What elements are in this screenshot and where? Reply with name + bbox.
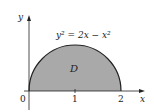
- diagram: y x 0 1 2 y² = 2x − x² D: [0, 0, 154, 112]
- equation-label: y² = 2x − x²: [55, 30, 111, 40]
- x-axis-label: x: [140, 94, 145, 104]
- x-axis-arrow-icon: [139, 89, 145, 93]
- tick-label-2: 2: [118, 94, 124, 104]
- tick-label-1: 1: [72, 94, 78, 104]
- diagram-canvas: y x 0 1 2 y² = 2x − x² D: [0, 0, 154, 112]
- region-label: D: [69, 63, 78, 74]
- y-axis-arrow-icon: [27, 15, 31, 21]
- tick-label-0: 0: [20, 94, 26, 104]
- y-axis-label: y: [17, 12, 24, 22]
